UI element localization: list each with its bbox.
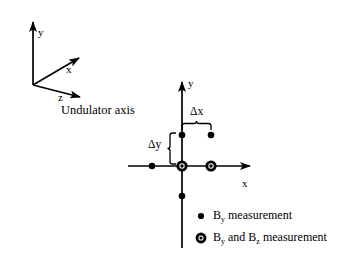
axis-3d-z-label: z (58, 92, 63, 103)
axis-3d-x-line (33, 58, 79, 85)
point-by-and-bz-center (209, 164, 212, 167)
legend-bybz-subscript-y: y (221, 237, 225, 246)
legend-item-by-label: By measurement (213, 209, 292, 221)
undulator-axis-caption: Undulator axis (61, 104, 135, 117)
axis-3d-x-label: x (66, 64, 72, 75)
diagram-vector-layer (0, 0, 344, 262)
point-by (179, 132, 186, 139)
point-by (149, 163, 156, 170)
point-by-and-bz-center (180, 164, 183, 167)
legend-ringed-dot-icon-center (199, 236, 202, 239)
legend-by-b: B (213, 208, 221, 222)
legend-bybz-mid: and B (225, 230, 256, 244)
legend-small-dot-icon (198, 213, 204, 219)
legend-bybz-subscript-z: z (256, 237, 260, 246)
legend-by-subscript: y (221, 215, 225, 224)
delta-y-brace (168, 133, 177, 164)
delta-x-brace (182, 121, 211, 130)
legend-bybz-b1: B (213, 230, 221, 244)
legend-bybz-suffix: measurement (260, 230, 327, 244)
figure-canvas: y x z Undulator axis y x Δx Δy By measur… (0, 0, 344, 262)
delta-y-label: Δy (148, 139, 161, 151)
legend-markers-group (196, 213, 207, 244)
legend-item-by-and-bz-label: By and Bz measurement (213, 231, 327, 243)
axis-3d-z-line (33, 85, 80, 97)
point-by (179, 193, 186, 200)
plot-x-axis-label: x (242, 178, 248, 189)
point-by (208, 132, 215, 139)
delta-x-label: Δx (190, 106, 203, 118)
plot-axes-group (128, 82, 250, 248)
plot-y-axis-label: y (188, 78, 194, 89)
legend-by-suffix: measurement (225, 208, 292, 222)
axis-3d-y-label: y (38, 27, 44, 38)
